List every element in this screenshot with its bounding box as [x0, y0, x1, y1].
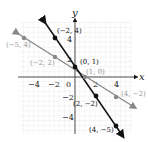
point-label: (−2, 2)	[30, 59, 55, 67]
point-label: (−5, 4)	[6, 41, 31, 49]
point-label: (4, −2)	[121, 90, 146, 98]
y-tick: −4	[62, 113, 74, 122]
coordinate-plane: x y −4 −2 0 2 4 4 2 −2 −4 (−2, 4) (0, 1)…	[0, 0, 148, 142]
x-tick: −2	[48, 80, 60, 89]
y-axis-label: y	[71, 7, 78, 18]
point-label: (−2, 4)	[57, 27, 82, 35]
point-label: (0, 1)	[80, 58, 99, 66]
x-axis-label: x	[139, 71, 145, 82]
grid	[20, 22, 132, 134]
x-tick: 4	[114, 80, 119, 89]
point-label: (4, −5)	[89, 126, 114, 134]
point-label: (2, −2)	[73, 100, 98, 108]
y-tick: 4	[67, 35, 72, 44]
x-tick: −4	[28, 80, 40, 89]
point-label: (1, 0)	[86, 68, 105, 76]
x-tick: 0	[66, 80, 71, 89]
